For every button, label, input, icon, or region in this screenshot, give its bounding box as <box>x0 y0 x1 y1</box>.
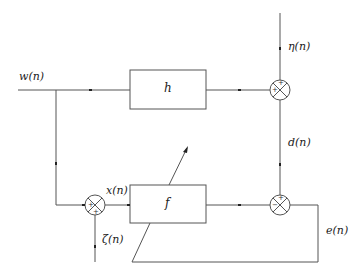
adaptive-arrowhead-icon <box>183 146 188 153</box>
arrow-dot-icon <box>55 162 57 165</box>
branch-line <box>56 90 85 205</box>
left-junction-plus-bottom: + <box>93 208 99 216</box>
arrow-dot-icon <box>82 204 85 206</box>
arrow-dot-icon <box>238 204 241 206</box>
bottom-junction-minus-left: − <box>272 201 278 209</box>
adaptive-arrow <box>169 148 187 185</box>
arrow-dot-icon <box>238 89 241 91</box>
label-zeta: ζ(n) <box>102 233 124 246</box>
label-d: d(n) <box>288 136 311 149</box>
label-e: e(n) <box>326 224 348 237</box>
label-h: h <box>164 81 172 95</box>
arrow-dot-icon <box>279 47 281 50</box>
arrow-dot-icon <box>89 89 92 91</box>
label-x: x(n) <box>106 184 128 197</box>
label-w: w(n) <box>19 70 44 83</box>
top-junction-plus-top: + <box>278 79 284 87</box>
label-f: f <box>165 196 169 210</box>
arrow-dot-icon <box>127 204 130 206</box>
top-junction-plus-left: + <box>272 86 278 94</box>
label-eta: η(n) <box>288 40 310 53</box>
arrow-dot-icon <box>94 245 96 248</box>
error-feedback-line <box>132 205 318 262</box>
block-diagram: + + + + + − w(n) h η(n) d(n) x(n) f ζ(n)… <box>0 0 361 279</box>
bottom-junction-plus-top: + <box>278 194 284 202</box>
arrow-dot-icon <box>279 163 281 166</box>
